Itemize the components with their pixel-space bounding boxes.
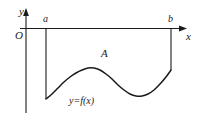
curve-equation-label: y=f(x) [69,96,94,106]
x-axis-label: x [186,31,191,42]
y-axis-label: y [19,6,24,17]
function-curve [46,68,171,99]
region-label-A: A [101,48,108,59]
origin-label: O [15,30,23,41]
integral-area-figure: y x O a b A y=f(x) [0,0,203,120]
upper-limit-label-b: b [168,14,173,24]
lower-limit-label-a: a [43,14,48,24]
